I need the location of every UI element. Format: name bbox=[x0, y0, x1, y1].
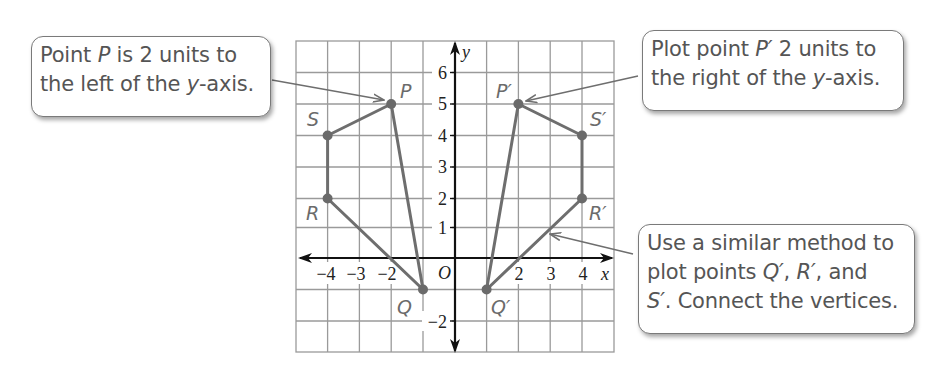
axes bbox=[300, 43, 612, 351]
y-tick-4: 4 bbox=[438, 126, 447, 146]
point-r bbox=[323, 194, 333, 204]
callout-right-bottom: Use a similar method to plot points Q′, … bbox=[638, 224, 915, 334]
label-s: S bbox=[307, 108, 319, 130]
x-tick-neg3: −3 bbox=[346, 264, 365, 284]
label-q: Q bbox=[397, 296, 412, 318]
callout-text: plot points bbox=[647, 260, 763, 284]
y-tick-1: 1 bbox=[438, 218, 447, 238]
point-s-prime bbox=[577, 131, 587, 141]
x-axis-label: x bbox=[600, 264, 609, 284]
point-q-prime bbox=[482, 285, 492, 295]
point-q bbox=[418, 285, 428, 295]
variable-r-prime: R′ bbox=[797, 260, 816, 284]
callout-left: Point P is 2 units to the left of the y-… bbox=[31, 36, 271, 117]
variable-s-prime: S′ bbox=[647, 289, 665, 313]
y-tick-neg2: −2 bbox=[428, 312, 447, 332]
callout-text: the left of the bbox=[40, 72, 187, 96]
y-tick-6: 6 bbox=[438, 63, 447, 83]
callout-text: Plot point bbox=[651, 37, 755, 61]
x-tick-neg4: −4 bbox=[316, 264, 335, 284]
callout-right-top: Plot point P′ 2 units to the right of th… bbox=[642, 30, 904, 111]
x-tick-neg2: −2 bbox=[377, 264, 396, 284]
variable-p: P bbox=[98, 43, 110, 67]
point-p bbox=[386, 99, 396, 109]
callout-text: Point bbox=[40, 43, 98, 67]
label-p-prime: P′ bbox=[496, 80, 512, 102]
y-tick-2: 2 bbox=[438, 189, 447, 209]
point-p-prime bbox=[513, 99, 523, 109]
point-r-prime bbox=[577, 194, 587, 204]
variable-p-prime: P′ bbox=[755, 37, 772, 61]
callout-text: is 2 units to bbox=[110, 43, 237, 67]
x-tick-2: 2 bbox=[515, 264, 524, 284]
x-tick-4: 4 bbox=[579, 264, 588, 284]
variable-q-prime: Q′ bbox=[763, 260, 784, 284]
x-tick-3: 3 bbox=[547, 264, 556, 284]
polygon-pqrs bbox=[328, 104, 423, 290]
point-s bbox=[323, 131, 333, 141]
label-q-prime: Q′ bbox=[491, 296, 511, 318]
y-tick-3: 3 bbox=[438, 157, 447, 177]
callout-text: Use a similar method to bbox=[647, 229, 906, 258]
callout-text: -axis. bbox=[825, 66, 880, 90]
origin-label: O bbox=[438, 263, 451, 283]
callout-text: -axis. bbox=[199, 72, 254, 96]
variable-y: y bbox=[187, 72, 199, 96]
variable-y: y bbox=[813, 66, 825, 90]
label-p: P bbox=[400, 80, 412, 102]
polygon-pqrs-prime bbox=[487, 104, 582, 290]
callout-text: , bbox=[784, 260, 797, 284]
callout-text: 2 units to bbox=[772, 37, 876, 61]
leader-right-bottom bbox=[550, 234, 633, 254]
label-s-prime: S′ bbox=[590, 108, 607, 130]
y-axis-label: y bbox=[460, 42, 470, 62]
callout-text: , and bbox=[816, 260, 868, 284]
callout-text: . Connect the vertices. bbox=[665, 289, 899, 313]
label-r-prime: R′ bbox=[589, 202, 607, 224]
y-tick-5: 5 bbox=[438, 94, 447, 114]
label-r: R bbox=[306, 202, 319, 224]
callout-text: the right of the bbox=[651, 66, 813, 90]
